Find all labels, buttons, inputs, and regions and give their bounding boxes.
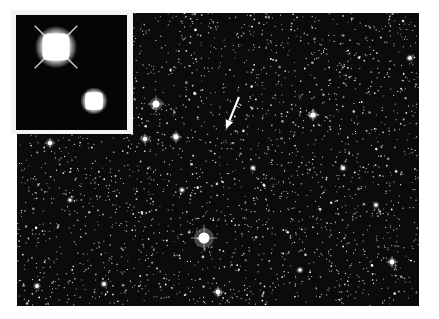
inset-closeup (16, 15, 127, 130)
inset-sources (16, 15, 127, 130)
figure-caption (60, 312, 420, 319)
